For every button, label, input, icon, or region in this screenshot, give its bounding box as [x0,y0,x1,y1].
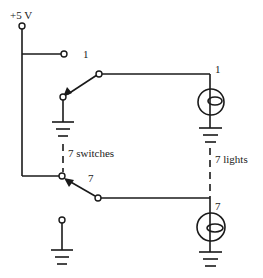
lamp-7-bulb-icon [197,213,225,241]
switch-1-ground-icon [52,122,74,136]
switch-7-pivot [95,195,101,201]
switch-1: 1 [22,48,102,136]
lights-group-label: 7 lights [215,153,248,165]
switch-7-label: 7 [88,172,94,184]
switch-7-ground-icon [51,250,73,264]
switch-7: 7 [22,172,101,264]
supply-label: +5 V [10,9,32,21]
switch-1-supply-contact [61,51,67,57]
lamp-1-ground-icon [199,128,222,142]
switch-7-ground-contact [59,217,65,223]
circuit-diagram: +5 V 1 1 7 switches 7 l [0,0,263,278]
lamp-1-label: 1 [215,63,221,75]
lamp-7-ground-icon [199,252,222,266]
supply-rail [19,23,25,176]
lamp-7-label: 7 [215,200,221,212]
switches-group-label: 7 switches [68,147,114,159]
switch-1-ground-contact [60,94,66,100]
lamp-1: 1 [198,63,224,142]
switch-1-label: 1 [83,48,89,60]
lamp-7: 7 [197,198,225,266]
supply-terminal [19,23,25,29]
switch-1-pivot [96,71,102,77]
lamp-1-bulb-icon [198,89,224,115]
